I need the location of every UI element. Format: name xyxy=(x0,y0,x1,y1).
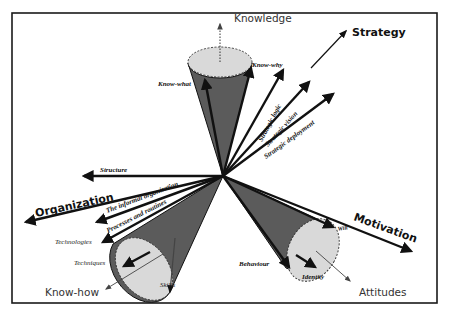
structure-label: Structure xyxy=(100,166,127,174)
know-why-label: Know-why xyxy=(251,61,284,69)
attitudes-title: Attitudes xyxy=(359,286,407,298)
strategy-title: Strategy xyxy=(352,26,406,39)
techniques-label: Techniques xyxy=(74,259,106,267)
know-how-title: Know-how xyxy=(45,286,99,298)
technologies-label: Technologies xyxy=(55,238,92,246)
skills-label: Skills xyxy=(160,281,175,289)
behaviour-label: Behaviour xyxy=(238,260,270,268)
identity-label: Identity xyxy=(301,273,325,281)
knowledge-title: Knowledge xyxy=(234,12,292,24)
three-cone-diagram: Knowledge Know-what Know-why Strategy St… xyxy=(0,0,449,318)
know-what-label: Know-what xyxy=(157,80,192,88)
